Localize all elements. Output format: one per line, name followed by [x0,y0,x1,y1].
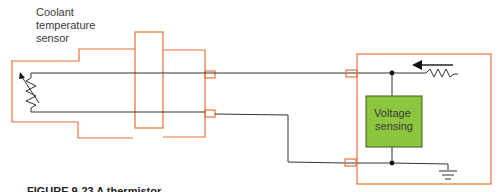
coolant-sensor-circuit-diagram: Coolant temperature sensor [0,0,500,192]
connector-pin-bottom [205,110,215,117]
connector-pin-top [205,71,215,78]
junction-dot-icon [390,161,395,166]
junction-dot-icon [390,71,395,76]
ground-icon [439,164,457,179]
resistor-icon [426,69,458,77]
variable-resistor-icon [19,72,39,112]
current-arrow-icon [412,60,453,70]
voltage-sensing-block: Voltage sensing [366,96,422,147]
figure-caption: FIGURE 9-23 A thermistor [27,185,161,192]
sensor-label: Coolant temperature sensor [36,6,98,44]
svg-text:Voltage sensing: Voltage sensing [374,107,414,132]
sensor-body [12,32,215,138]
